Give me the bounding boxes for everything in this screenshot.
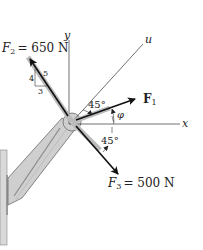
slope-run: 3 [38,87,43,96]
slope-hyp: 5 [43,69,48,78]
force-f1: F1 [72,92,157,122]
angle-lower-45: 45° [101,135,119,146]
slope-rise: 4 [29,74,34,83]
wall [0,150,8,245]
f3-label: F3= 500 N [107,176,175,191]
x-axis-label: x [182,117,189,130]
angle-phi: φ [117,109,124,120]
force-f3: F3= 500 N [72,122,175,191]
force-diagram: y x u F2= 650 N 4 5 3 F1 F3= 500 N 45° φ… [0,0,203,250]
axes: y x u [63,29,189,130]
force-f2: F2= 650 N 4 5 3 [1,41,72,122]
angle-upper-45: 45° [88,99,106,110]
f2-label: F2= 650 N [1,41,69,56]
u-axis-label: u [145,33,152,46]
angle-annotations: 45° φ 45° [83,99,124,152]
bracket [8,113,81,205]
f1-label: F1 [143,92,157,107]
